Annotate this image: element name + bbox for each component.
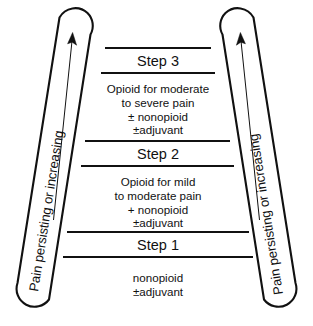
step-2-heading: Step 2	[137, 146, 179, 162]
step-2-group: Step 2 Opioid for mild to moderate pain …	[114, 146, 201, 229]
step-1-heading: Step 1	[137, 237, 179, 253]
step-1-group: Step 1 nonopioid ±adjuvant	[133, 237, 184, 298]
step-2-line-2: to moderate pain	[114, 189, 201, 202]
step-3-line-2: to severe pain	[122, 96, 195, 109]
step-3-line-3: ± nonopioid	[128, 110, 188, 123]
who-analgesic-ladder-diagram: Step 3 Opioid for moderate to severe pai…	[0, 0, 313, 326]
ladder-graphic: Step 3 Opioid for moderate to severe pai…	[0, 0, 313, 326]
step-1-line-2: ±adjuvant	[133, 285, 184, 298]
step-2-line-3: + nonopioid	[128, 203, 188, 216]
step-3-group: Step 3 Opioid for moderate to severe pai…	[107, 53, 209, 136]
step-3-line-4: ±adjuvant	[133, 123, 184, 136]
step-2-line-1: Opioid for mild	[121, 175, 196, 188]
step-1-line-1: nonopioid	[133, 271, 183, 284]
step-2-line-4: ±adjuvant	[133, 216, 184, 229]
step-3-heading: Step 3	[137, 53, 179, 69]
step-3-line-1: Opioid for moderate	[107, 82, 209, 95]
